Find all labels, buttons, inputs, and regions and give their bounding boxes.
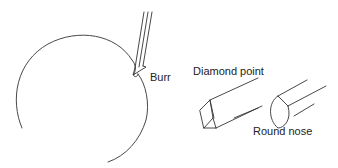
- burr-label: Burr: [150, 72, 171, 83]
- workpiece-arc: [16, 35, 132, 128]
- workpiece-arc-lower: [108, 74, 148, 162]
- diamond-point-tool: [200, 78, 262, 128]
- round-nose-label: Round nose: [253, 126, 312, 137]
- tool-line-3: [143, 12, 152, 66]
- lathe-tool-diagram: [0, 0, 338, 168]
- diamond-point-label: Diamond point: [193, 66, 264, 77]
- tool-line-2: [139, 12, 148, 67]
- tool-line-1: [135, 12, 144, 68]
- round-nose-tool: [271, 80, 327, 128]
